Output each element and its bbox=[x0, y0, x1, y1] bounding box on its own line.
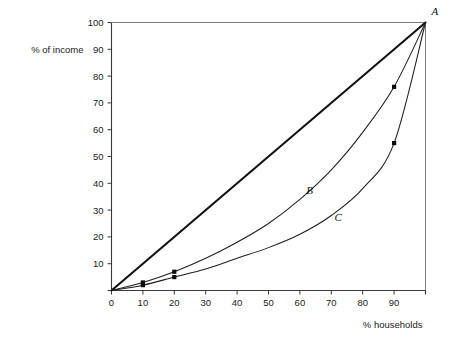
x-tick-label: 0 bbox=[109, 297, 114, 308]
y-tick-label: 70 bbox=[93, 97, 104, 108]
data-point-marker bbox=[172, 275, 176, 279]
x-tick-label: 80 bbox=[357, 297, 368, 308]
y-axis-ticks bbox=[108, 23, 112, 291]
x-axis-tick-labels: 0102030405060708090 bbox=[109, 297, 400, 308]
y-axis-tick-labels: 102030405060708090100 bbox=[88, 17, 104, 269]
series-a-equality-line bbox=[112, 23, 426, 291]
y-tick-label: 90 bbox=[93, 44, 104, 55]
x-tick-label: 40 bbox=[232, 297, 243, 308]
y-tick-label: 20 bbox=[93, 231, 104, 242]
curve-label-c: C bbox=[334, 211, 342, 223]
chart-canvas: 102030405060708090100 010203040506070809… bbox=[0, 0, 463, 341]
x-axis-title: % households bbox=[363, 319, 423, 330]
x-tick-label: 50 bbox=[263, 297, 274, 308]
y-tick-label: 80 bbox=[93, 71, 104, 82]
y-tick-label: 100 bbox=[88, 17, 104, 28]
curve-label-b: B bbox=[306, 184, 313, 196]
y-tick-label: 30 bbox=[93, 205, 104, 216]
y-tick-label: 50 bbox=[93, 151, 104, 162]
curve-label-a: A bbox=[431, 5, 439, 17]
data-point-marker bbox=[172, 270, 176, 274]
x-tick-label: 60 bbox=[295, 297, 306, 308]
data-point-marker bbox=[141, 283, 145, 287]
data-point-markers bbox=[141, 85, 396, 288]
x-tick-label: 20 bbox=[169, 297, 180, 308]
y-tick-label: 10 bbox=[93, 258, 104, 269]
y-axis-title: % of income bbox=[31, 44, 83, 55]
y-tick-label: 40 bbox=[93, 178, 104, 189]
x-tick-label: 90 bbox=[389, 297, 400, 308]
data-point-marker bbox=[392, 141, 396, 145]
x-axis-ticks bbox=[112, 291, 426, 295]
data-series-group bbox=[112, 23, 426, 291]
y-tick-label: 60 bbox=[93, 124, 104, 135]
x-tick-label: 30 bbox=[200, 297, 211, 308]
lorenz-curve-chart: 102030405060708090100 010203040506070809… bbox=[0, 0, 463, 341]
x-tick-label: 70 bbox=[326, 297, 337, 308]
data-point-marker bbox=[392, 85, 396, 89]
x-tick-label: 10 bbox=[138, 297, 149, 308]
